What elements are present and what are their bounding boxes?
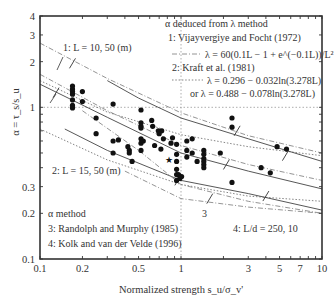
x-tick-label: 3 xyxy=(246,263,251,274)
leader-line xyxy=(57,57,63,70)
y-tick-label: 2 xyxy=(30,57,35,68)
data-point xyxy=(268,170,273,175)
data-point xyxy=(174,159,179,164)
data-point xyxy=(150,124,155,129)
data-point xyxy=(168,141,173,146)
legend-4: 4: Kolk and van der Velde (1996) xyxy=(48,238,182,250)
data-point xyxy=(229,180,234,185)
legend-1: 1: Vijayvergiye and Focht (1972) xyxy=(168,32,301,44)
data-point xyxy=(229,125,234,130)
data-point xyxy=(152,143,157,148)
legend-2-eq-b: or λ = 0.488 − 0.078ln(3.278L) xyxy=(190,88,315,100)
y-axis-label: α = τ_s/s_u xyxy=(10,87,21,135)
y-tick-label: 0.1 xyxy=(22,254,35,265)
data-point xyxy=(161,136,166,141)
data-point xyxy=(70,97,75,102)
x-tick-label: 5 xyxy=(277,263,282,274)
data-point xyxy=(184,138,189,143)
data-point xyxy=(80,99,85,104)
y-tick-label: 0.3 xyxy=(22,182,35,193)
x-tick-label: 0.5 xyxy=(132,263,145,274)
data-point xyxy=(116,137,121,142)
data-point xyxy=(149,118,154,123)
x-tick-label: 0.1 xyxy=(33,263,46,274)
x-tick-label: 0.2 xyxy=(76,263,89,274)
label-curve-3: 3 xyxy=(202,208,207,219)
data-point xyxy=(111,102,116,107)
data-point xyxy=(159,128,164,133)
data-point xyxy=(111,138,116,143)
chart: ★ 0.10.20.51357100.10.20.31234Normalized… xyxy=(0,0,335,300)
data-point xyxy=(138,126,143,131)
curve-marker xyxy=(53,88,59,98)
x-axis-label: Normalized strength s_u/σ_v' xyxy=(119,284,243,295)
data-point xyxy=(174,142,179,147)
y-tick-label: 3 xyxy=(30,30,35,41)
data-point xyxy=(179,174,184,179)
data-point xyxy=(184,155,189,160)
data-point xyxy=(94,131,99,136)
legend-2-eq-a: λ = 0.296 − 0.032ln(3.278L) xyxy=(207,75,321,87)
data-point xyxy=(130,159,135,164)
data-point-star: ★ xyxy=(165,155,173,165)
data-point xyxy=(127,150,132,155)
y-tick-label: 1 xyxy=(30,102,35,113)
data-point xyxy=(70,92,75,97)
data-point xyxy=(174,167,179,172)
data-point xyxy=(170,135,175,140)
data-point xyxy=(284,147,289,152)
curve-marker xyxy=(282,151,288,161)
label-curve-2: 2: L = 15, 50 (m) xyxy=(52,165,121,177)
legend-3: 3: Randolph and Murphy (1985) xyxy=(48,223,178,235)
x-tick-label: 10 xyxy=(317,263,328,274)
x-tick-label: 1 xyxy=(178,263,183,274)
annotations: 0.10.20.51357100.10.20.31234Normalized s… xyxy=(10,11,334,295)
data-point xyxy=(229,115,234,120)
y-tick-label: 4 xyxy=(30,11,36,22)
data-point xyxy=(94,115,99,120)
legend-lambda-header: α deduced from λ method xyxy=(165,18,268,29)
data-point xyxy=(190,136,195,141)
data-point xyxy=(111,150,116,155)
data-point xyxy=(184,148,189,153)
curve-marker xyxy=(263,191,269,201)
leader-line xyxy=(50,94,56,103)
data-point xyxy=(195,159,200,164)
data-point xyxy=(174,152,179,157)
label-curve-4: 4: L/d = 250, 10 xyxy=(233,223,298,234)
data-point xyxy=(80,89,85,94)
y-tick-label: 0.2 xyxy=(22,208,35,219)
legend-1-eq: λ = 60(0.1L − 1 + e^(−0.1L))/L² xyxy=(205,49,334,61)
x-tick-label: 7 xyxy=(298,263,303,274)
curve-marker xyxy=(69,58,75,68)
data-point xyxy=(138,107,143,112)
data-point xyxy=(70,105,75,110)
label-curve-1: 1: L = 10, 50 (m) xyxy=(63,42,132,54)
data-point xyxy=(218,150,223,155)
data-point xyxy=(138,148,143,153)
data-point xyxy=(158,147,163,152)
data-point xyxy=(259,165,264,170)
data-point xyxy=(275,144,280,149)
legend-2: 2: Kraft et al. (1981) xyxy=(172,62,254,74)
data-point xyxy=(201,165,206,170)
data-point xyxy=(141,138,146,143)
legend-alpha-header: α method xyxy=(48,208,86,219)
data-point xyxy=(190,150,195,155)
